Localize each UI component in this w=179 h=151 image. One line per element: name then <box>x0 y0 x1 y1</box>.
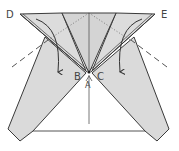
label-a: A <box>85 81 91 90</box>
origami-diagram: D E B C A <box>0 0 179 151</box>
label-c: C <box>97 71 104 82</box>
point-a-marker <box>87 70 90 73</box>
label-e: E <box>161 9 167 20</box>
label-d: D <box>6 9 14 20</box>
label-b: B <box>74 71 81 82</box>
